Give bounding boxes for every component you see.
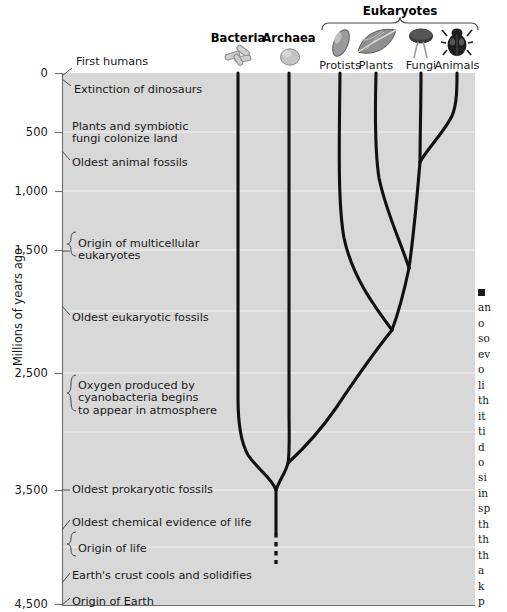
taxon-label-plants: Plants	[350, 59, 402, 72]
side-text-line: k	[478, 579, 507, 594]
side-text-line: in	[478, 486, 507, 501]
event-origin-of-life: Origin of life	[78, 543, 147, 555]
side-text-line: p	[478, 594, 507, 609]
square-bullet-icon	[478, 289, 485, 296]
event-extinction-of-dinosaurs: Extinction of dinosaurs	[74, 84, 202, 96]
side-text-line: an	[478, 300, 507, 315]
tree-branches	[238, 73, 457, 533]
beetle-icon	[441, 24, 473, 60]
y-axis-title: Millions of years ago	[11, 237, 25, 377]
taxon-label-archaea: Archaea	[259, 31, 319, 45]
branch-bacteria	[238, 73, 276, 490]
side-text-line: th	[478, 517, 507, 532]
event-oxygen-cyanobacteria: Oxygen produced by cyanobacteria begins …	[78, 380, 217, 417]
y-tick-label-1500: 1,500	[2, 243, 48, 257]
event-earths-crust-cools: Earth's crust cools and solidifies	[72, 570, 252, 582]
y-tick-label-0: 0	[2, 66, 48, 80]
bacteria-icon	[222, 44, 256, 68]
side-text-line: d	[478, 440, 507, 455]
branch-archaea	[276, 73, 289, 490]
branch-plants	[375, 73, 409, 268]
archaea-icon	[276, 44, 304, 68]
phylogenetic-timeline-figure: Millions of years ago 0 500 1,000 1,500 …	[0, 0, 507, 612]
event-origin-multicellular-eukaryotes: Origin of multicellular eukaryotes	[78, 238, 199, 263]
side-text-line	[478, 285, 507, 300]
side-text-line: ti	[478, 424, 507, 439]
protist-icon	[326, 26, 356, 60]
plant-leaf-icon	[354, 26, 400, 60]
axis-ticks	[55, 74, 62, 605]
side-text-line: so	[478, 331, 507, 346]
mushroom-icon	[404, 26, 438, 60]
taxon-label-animals: Animals	[428, 59, 486, 72]
side-text-line: o	[478, 316, 507, 331]
branch-fungi-animals-stem	[409, 162, 420, 268]
side-text-line: o	[478, 455, 507, 470]
side-text-line: th	[478, 548, 507, 563]
branch-eukaryote-stem	[288, 330, 392, 463]
side-text-line: th	[478, 393, 507, 408]
branch-fungi	[420, 73, 421, 162]
event-oldest-chemical-evidence: Oldest chemical evidence of life	[72, 517, 251, 529]
side-text-line: li	[478, 378, 507, 393]
y-tick-label-2500: 2,500	[2, 366, 48, 380]
y-tick-label-4500: 4,500	[2, 597, 48, 611]
y-tick-label-500: 500	[2, 125, 48, 139]
side-text-line: o	[478, 362, 507, 377]
event-plants-colonize-land: Plants and symbiotic fungi colonize land	[72, 121, 188, 146]
side-text-line: th	[478, 532, 507, 547]
event-origin-of-earth: Origin of Earth	[72, 596, 154, 608]
y-tick-label-3500: 3,500	[2, 483, 48, 497]
event-first-humans: First humans	[76, 56, 148, 68]
adjacent-text-column: an o so ev o li th it ti d o si in sp th…	[478, 285, 507, 612]
event-oldest-animal-fossils: Oldest animal fossils	[72, 157, 188, 169]
side-text-line: it	[478, 409, 507, 424]
branch-animals	[420, 73, 457, 162]
group-label-eukaryotes: Eukaryotes	[340, 4, 460, 18]
event-oldest-prokaryotic-fossils: Oldest prokaryotic fossils	[72, 484, 213, 496]
branch-plants-fungi-animals-stem	[392, 268, 409, 330]
event-braces	[67, 232, 76, 556]
side-text-line: si	[478, 470, 507, 485]
event-oldest-eukaryotic-fossils: Oldest eukaryotic fossils	[72, 312, 209, 324]
y-tick-label-1000: 1,000	[2, 184, 48, 198]
side-text-line: ev	[478, 347, 507, 362]
side-text-line: a	[478, 563, 507, 578]
event-leader-lines	[62, 68, 72, 605]
side-text-line: sp	[478, 501, 507, 516]
